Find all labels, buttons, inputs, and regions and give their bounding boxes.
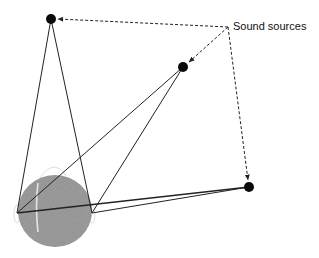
head-top-view <box>14 167 95 247</box>
pointer-to-source-2 <box>189 27 228 62</box>
line-right-ear-source-2 <box>92 67 183 213</box>
line-right-ear-source-3 <box>92 187 249 213</box>
sound-source-dot-1 <box>46 14 56 24</box>
line-left-ear-source-2 <box>17 67 183 213</box>
sound-source-dot-2 <box>178 62 188 72</box>
pointer-to-source-3 <box>228 27 248 180</box>
sound-source-dots <box>46 14 254 192</box>
label-pointer-arrows <box>58 19 248 180</box>
sound-source-dot-3 <box>244 182 254 192</box>
pointer-to-source-1 <box>58 19 228 27</box>
sound-source-diagram <box>0 0 319 258</box>
sound-sources-label: Sound sources <box>233 21 306 32</box>
